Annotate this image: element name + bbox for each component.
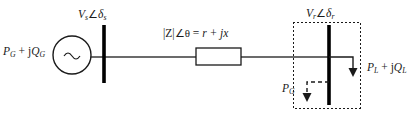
load-p-sub: L [374,66,378,75]
label-source-injection: PG + jQG [3,46,45,58]
sending-bus-v: V [78,8,85,20]
diagram-canvas [0,0,420,114]
source-injection-q-sub: G [39,50,45,59]
embedded-generation-p: P [282,82,289,94]
label-embedded-generation: PG [282,83,295,95]
embedded-generation-tap-line [307,82,329,94]
receiving-bus-v: V [306,7,313,19]
sending-bus-angle-icon: ∠ [88,8,98,20]
sending-bus-v-sub: s [85,13,88,22]
source-injection-p-sub: G [10,50,16,59]
impedance-rectangular: r + jx [202,27,228,39]
label-sending-bus-voltage: Vs∠δs [78,9,106,21]
load-arrowhead-icon [349,68,358,77]
label-load-demand: PL + jQL [367,62,407,74]
receiving-bus-v-sub: r [313,12,316,21]
power-system-one-line-diagram: PG + jQG Vs∠δs |Z|∠θ = r + jx Vr∠δr PL +… [0,0,420,114]
impedance-magnitude: |Z| [163,27,175,39]
impedance-block [196,48,241,65]
label-receiving-bus-voltage: Vr∠δr [306,8,334,20]
source-injection-p: P [3,45,10,57]
load-tap-line [329,57,353,69]
embedded-generation-arrowhead-icon [303,93,312,102]
load-q: Q [394,61,402,73]
load-op: + j [378,61,393,73]
dashed-boundary-box [293,22,360,108]
load-p: P [367,61,374,73]
receiving-bus-angle-icon: ∠ [316,7,326,19]
impedance-equals: = [190,27,202,39]
embedded-generation-p-sub: G [289,87,295,96]
source-injection-op: + j [16,45,31,57]
load-q-sub: L [402,66,406,75]
impedance-angle: ∠θ [175,27,190,39]
label-line-impedance: |Z|∠θ = r + jx [163,28,228,40]
